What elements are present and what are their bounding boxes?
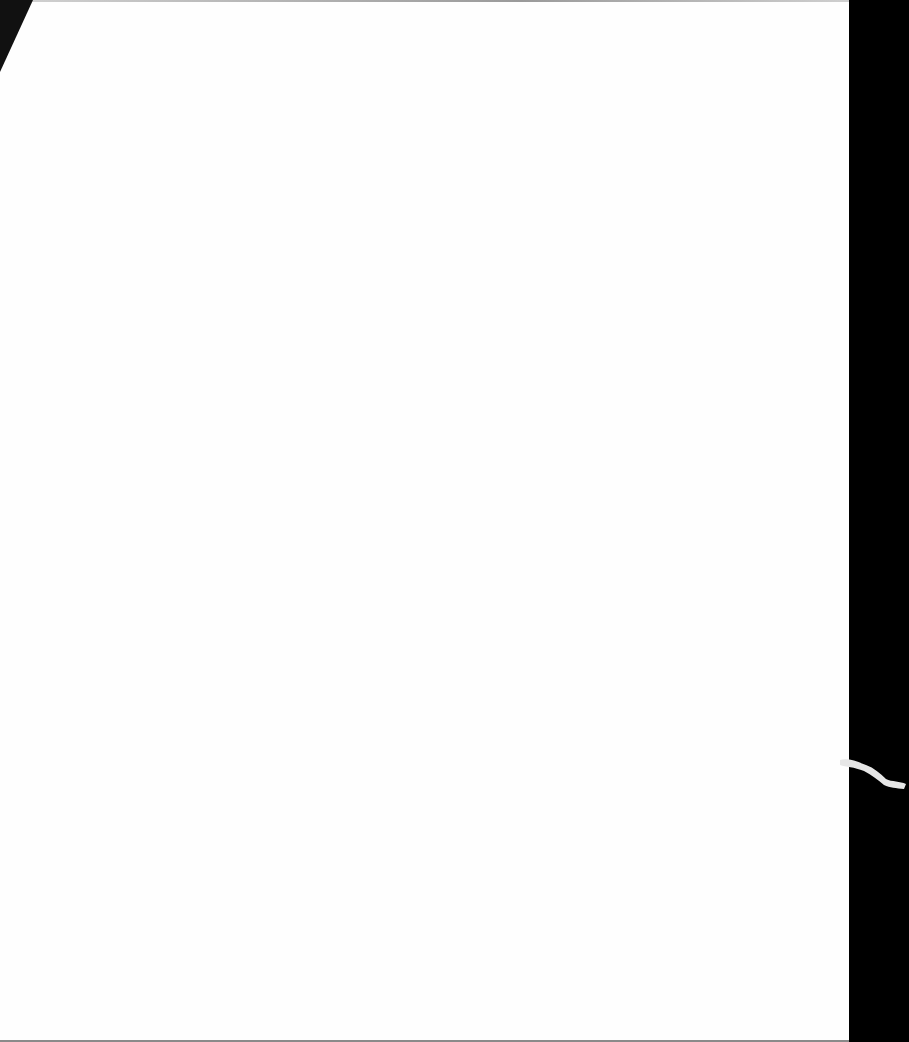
- blank-page-lower-section: [0, 765, 840, 1042]
- page-top-edge: [30, 0, 849, 2]
- torn-paper-flap: [838, 755, 908, 795]
- scan-background-right-lower: [840, 765, 909, 1042]
- scan-corner-shadow: [0, 0, 40, 75]
